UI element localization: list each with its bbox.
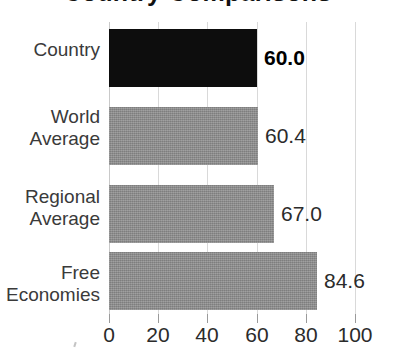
tick-mark-20 (158, 314, 159, 323)
bar-chart: Country Comparisons Country World Averag… (0, 0, 395, 358)
tick-mark-0 (109, 314, 110, 323)
bar-world-average[interactable] (109, 107, 258, 165)
tick-label-100: 100 (337, 323, 372, 347)
tick-label-80: 80 (294, 323, 317, 347)
value-label-free-economies: 84.6 (324, 269, 365, 293)
chart-title: Country Comparisons (0, 0, 395, 7)
value-label-world-average: 60.4 (265, 124, 306, 148)
value-label-regional-average: 67.0 (281, 202, 322, 226)
bar-country[interactable] (109, 29, 257, 87)
tick-label-60: 60 (245, 323, 268, 347)
plot-area (109, 22, 355, 314)
tick-label-40: 40 (195, 323, 218, 347)
tick-mark-100 (355, 314, 356, 323)
bar-free-economies[interactable] (109, 252, 317, 310)
scan-artifact-speck (73, 342, 76, 347)
tick-mark-40 (207, 314, 208, 323)
tick-mark-80 (306, 314, 307, 323)
category-label-free-economies: Free Economies (0, 262, 100, 306)
chart-title-cropped: Country Comparisons (0, 0, 395, 9)
tick-label-20: 20 (146, 323, 169, 347)
tick-mark-60 (257, 314, 258, 323)
tick-label-0: 0 (103, 323, 115, 347)
category-label-country: Country (0, 39, 100, 61)
bar-regional-average[interactable] (109, 185, 274, 243)
value-label-country: 60.0 (264, 46, 305, 70)
category-label-world-average: World Average (0, 106, 100, 150)
category-label-regional-average: Regional Average (0, 186, 100, 230)
